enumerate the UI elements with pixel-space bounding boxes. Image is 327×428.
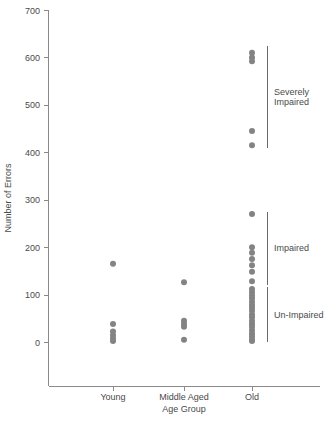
annotation-label-line: Impaired <box>274 97 309 107</box>
annotation-label: SeverelyImpaired <box>274 87 310 107</box>
annotation-label: Un-Impaired <box>274 310 324 320</box>
x-tick-label: Young <box>100 392 125 402</box>
data-point <box>249 58 255 64</box>
annotation-label-line: Impaired <box>274 243 309 253</box>
data-point <box>181 337 187 343</box>
data-point <box>249 142 255 148</box>
x-tick-label: Middle Aged <box>159 392 209 402</box>
x-tick-label: Old <box>245 392 259 402</box>
annotation-group: SeverelyImpairedImpairedUn-Impaired <box>268 46 324 342</box>
x-axis: YoungMiddle AgedOld Age Group <box>49 387 321 415</box>
y-tick-label: 0 <box>35 338 40 348</box>
y-tick-label: 200 <box>25 243 40 253</box>
data-point <box>249 338 255 344</box>
data-point <box>110 338 116 344</box>
annotation-label-line: Un-Impaired <box>274 310 324 320</box>
data-point <box>249 244 255 250</box>
y-tick-label: 100 <box>25 290 40 300</box>
x-axis-ticks: YoungMiddle AgedOld <box>100 387 259 403</box>
data-point <box>249 262 255 268</box>
y-axis: 0100200300400500600700 Number of Errors <box>3 6 49 387</box>
data-point <box>181 279 187 285</box>
annotation-label-line: Severely <box>274 87 310 97</box>
data-point <box>110 321 116 327</box>
data-point <box>249 250 255 256</box>
data-point <box>110 261 116 267</box>
y-tick-label: 700 <box>25 6 40 16</box>
scatter-plot-figure: 0100200300400500600700 Number of Errors … <box>0 0 327 428</box>
plot-canvas: 0100200300400500600700 Number of Errors … <box>0 0 327 428</box>
data-point <box>249 269 255 275</box>
y-axis-title: Number of Errors <box>3 163 13 233</box>
annotation-label: Impaired <box>274 243 309 253</box>
data-point-group <box>110 50 255 344</box>
data-point <box>181 324 187 330</box>
data-point <box>249 211 255 217</box>
x-axis-title: Age Group <box>162 404 206 414</box>
data-point <box>249 128 255 134</box>
y-tick-label: 600 <box>25 53 40 63</box>
data-point <box>249 256 255 262</box>
y-axis-ticks: 0100200300400500600700 <box>25 6 49 348</box>
y-tick-label: 400 <box>25 148 40 158</box>
y-tick-label: 500 <box>25 100 40 110</box>
data-point <box>249 278 255 284</box>
y-tick-label: 300 <box>25 195 40 205</box>
